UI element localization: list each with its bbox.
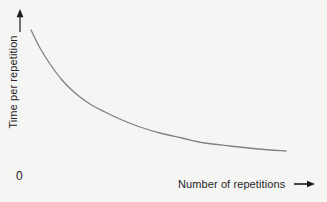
x-axis-label: Number of repetitions (178, 178, 285, 191)
plot-area (0, 0, 327, 202)
origin-zero-label: 0 (16, 169, 23, 183)
learning-curve-figure: Time per repetition 0 Number of repetiti… (0, 0, 327, 202)
x-axis-group: Number of repetitions (178, 176, 316, 192)
y-axis-group: Time per repetition (0, 0, 40, 150)
arrow-right-icon (294, 179, 316, 189)
learning-curve-line (31, 30, 286, 151)
y-axis-label: Time per repetition (7, 22, 19, 142)
